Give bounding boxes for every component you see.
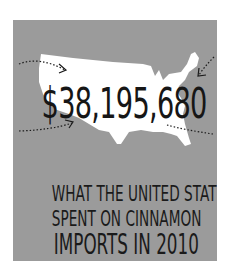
caption-line-2: SPENT ON CINNAMON (52, 208, 178, 230)
caption-line-3: IMPORTS IN 2010 (54, 231, 176, 259)
caption-line-1: WHAT THE UNITED STATES (52, 183, 178, 205)
amount-value: $38,195,680 (42, 82, 189, 126)
infographic-panel: $38,195,680 WHAT THE UNITED STATES SPENT… (13, 20, 217, 261)
